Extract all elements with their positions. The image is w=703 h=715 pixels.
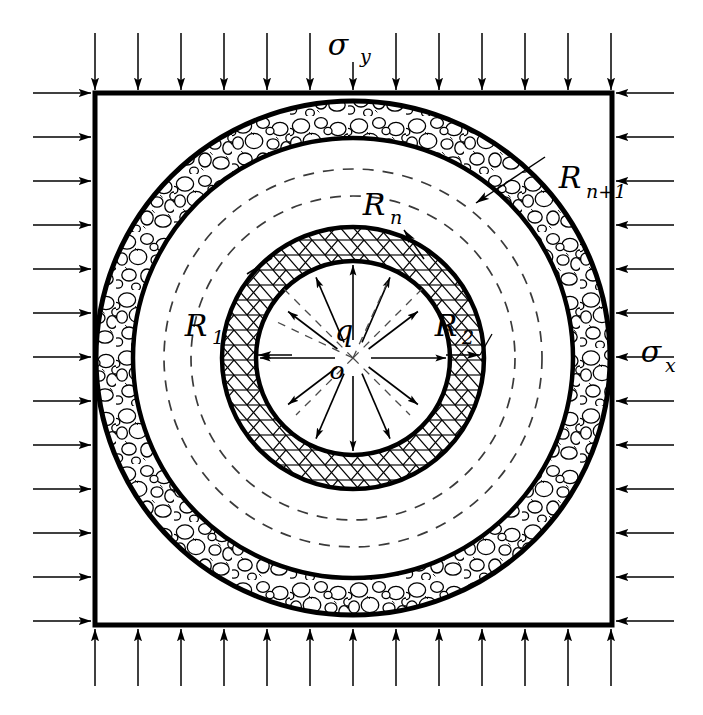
R2-subscript: 2 (461, 326, 474, 348)
figure-root: σ y σ x q o R 1 R 2 R n R n+1 (0, 0, 703, 715)
sigma-y-subscript: y (359, 45, 371, 67)
R1-symbol: R (184, 308, 208, 343)
R1-subscript: 1 (212, 326, 224, 348)
Rn-symbol: R (362, 187, 386, 222)
Rn1-subscript: n+1 (586, 180, 626, 202)
Rn-subscript: n (390, 206, 402, 228)
mechanical-model-diagram: σ y σ x q o R 1 R 2 R n R n+1 (0, 0, 703, 715)
label-origin-o: o (329, 356, 344, 385)
sigma-x-subscript: x (665, 354, 676, 376)
sigma-y-symbol: σ (328, 27, 350, 62)
Rn1-symbol: R (558, 160, 582, 195)
label-q: q (335, 314, 354, 348)
R2-symbol: R (434, 308, 458, 343)
sigma-x-symbol: σ (641, 334, 663, 369)
